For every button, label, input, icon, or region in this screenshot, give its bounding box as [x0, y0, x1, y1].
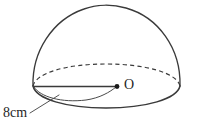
- dome-outline-path: [33, 5, 180, 86]
- hemisphere-figure: O 8cm: [0, 0, 207, 135]
- center-point-label: O: [124, 78, 134, 92]
- center-point-dot: [115, 84, 120, 89]
- radius-measure-label: 8cm: [3, 106, 27, 120]
- base-ellipse-back-path: [33, 64, 180, 86]
- hemisphere-drawing: [0, 0, 207, 135]
